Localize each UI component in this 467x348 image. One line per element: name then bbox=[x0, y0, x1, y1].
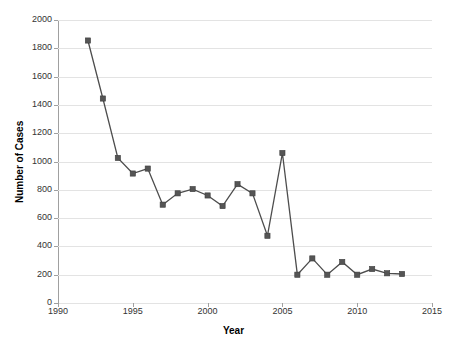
data-point bbox=[175, 191, 180, 196]
series-plot bbox=[0, 0, 467, 348]
data-point bbox=[295, 272, 300, 277]
data-point bbox=[370, 266, 375, 271]
data-point bbox=[340, 259, 345, 264]
series-line bbox=[88, 41, 402, 275]
data-point bbox=[250, 191, 255, 196]
data-point bbox=[325, 272, 330, 277]
data-point bbox=[100, 96, 105, 101]
y-axis-title: Number of Cases bbox=[14, 120, 25, 202]
data-point bbox=[310, 256, 315, 261]
data-point bbox=[205, 193, 210, 198]
data-point bbox=[130, 171, 135, 176]
data-point bbox=[190, 186, 195, 191]
data-point bbox=[160, 202, 165, 207]
data-point bbox=[220, 203, 225, 208]
data-point bbox=[399, 271, 404, 276]
data-point bbox=[145, 166, 150, 171]
series-markers bbox=[85, 38, 404, 277]
data-point bbox=[280, 150, 285, 155]
data-point bbox=[235, 182, 240, 187]
data-point bbox=[85, 38, 90, 43]
data-point bbox=[115, 155, 120, 160]
line-chart: 0200400600800100012001400160018002000 19… bbox=[0, 0, 467, 348]
data-point bbox=[265, 233, 270, 238]
x-axis-title: Year bbox=[0, 325, 467, 336]
data-point bbox=[355, 272, 360, 277]
data-point bbox=[385, 271, 390, 276]
